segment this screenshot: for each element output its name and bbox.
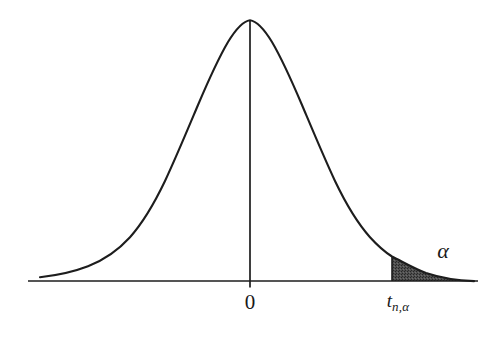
tail-fill (392, 257, 474, 282)
t-distribution-figure: 0 tn,α α (0, 0, 500, 337)
critical-value-label: tn,α (387, 291, 409, 313)
shaded-tail-region (392, 257, 474, 282)
origin-tick-label-text: 0 (245, 292, 256, 313)
density-curve (40, 20, 474, 281)
distribution-plot-svg (0, 0, 500, 337)
tail-area-label: α (437, 240, 449, 262)
critical-value-subscript-text: n,α (392, 299, 409, 314)
